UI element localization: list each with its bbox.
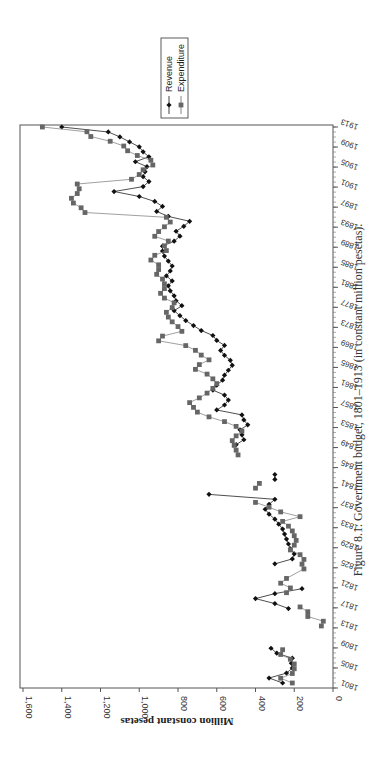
revenue-marker bbox=[133, 159, 138, 164]
expenditure-marker bbox=[278, 676, 283, 681]
expenditure-marker bbox=[75, 182, 80, 187]
expenditure-marker bbox=[170, 319, 175, 324]
value-tick-label: 600 bbox=[218, 696, 228, 711]
expenditure-marker bbox=[148, 258, 153, 263]
expenditure-marker bbox=[166, 315, 171, 320]
expenditure-marker bbox=[207, 357, 212, 362]
expenditure-marker bbox=[278, 652, 283, 657]
expenditure-marker bbox=[162, 243, 167, 248]
expenditure-marker bbox=[207, 414, 212, 419]
expenditure-marker bbox=[83, 210, 88, 215]
year-tick-label: 1805 bbox=[339, 658, 359, 673]
value-tick-label: 0 bbox=[334, 696, 344, 701]
expenditure-marker bbox=[222, 419, 227, 424]
expenditure-marker bbox=[284, 590, 289, 595]
expenditure-marker bbox=[187, 400, 192, 405]
expenditure-marker bbox=[162, 224, 167, 229]
expenditure-marker bbox=[170, 305, 175, 310]
legend-label: Revenue bbox=[164, 56, 174, 92]
expenditure-marker bbox=[183, 343, 188, 348]
revenue-marker bbox=[272, 601, 277, 606]
expenditure-marker bbox=[77, 186, 82, 191]
expenditure-marker bbox=[129, 177, 134, 182]
expenditure-marker bbox=[210, 386, 215, 391]
expenditure-marker bbox=[210, 376, 215, 381]
expenditure-marker bbox=[253, 500, 258, 505]
expenditure-marker bbox=[121, 144, 126, 149]
expenditure-marker bbox=[168, 220, 173, 225]
revenue-marker bbox=[127, 139, 132, 144]
revenue-marker bbox=[152, 199, 157, 204]
legend-expenditure-marker bbox=[179, 103, 184, 108]
revenue-marker bbox=[282, 531, 287, 536]
revenue-marker bbox=[191, 323, 196, 328]
year-tick-label: 1801 bbox=[339, 678, 359, 693]
expenditure-marker bbox=[156, 262, 161, 267]
year-tick-label: 1909 bbox=[339, 137, 359, 152]
revenue-marker bbox=[199, 328, 204, 333]
expenditure-marker bbox=[154, 272, 159, 277]
revenue-marker bbox=[272, 472, 277, 477]
value-tick-label: 400 bbox=[257, 696, 267, 711]
revenue-marker bbox=[272, 477, 277, 482]
value-tick-label: 1,000 bbox=[140, 696, 150, 719]
expenditure-marker bbox=[176, 324, 181, 329]
expenditure-marker bbox=[69, 196, 74, 201]
revenue-marker bbox=[241, 437, 246, 442]
expenditure-marker bbox=[290, 671, 295, 676]
expenditure-marker bbox=[290, 681, 295, 686]
expenditure-marker bbox=[85, 129, 90, 134]
expenditure-marker bbox=[292, 543, 297, 548]
expenditure-marker bbox=[288, 586, 293, 591]
expenditure-marker bbox=[88, 134, 93, 139]
expenditure-marker bbox=[205, 372, 210, 377]
expenditure-marker bbox=[230, 438, 235, 443]
expenditure-marker bbox=[156, 338, 161, 343]
expenditure-marker bbox=[152, 253, 157, 258]
expenditure-marker bbox=[162, 281, 167, 286]
revenue-marker bbox=[284, 536, 289, 541]
expenditure-marker bbox=[298, 552, 303, 557]
expenditure-marker bbox=[197, 395, 202, 400]
expenditure-marker bbox=[278, 581, 283, 586]
y-axis-label: Million constant pesetas bbox=[120, 716, 234, 728]
expenditure-marker bbox=[162, 286, 167, 291]
expenditure-marker bbox=[290, 529, 295, 534]
revenue-marker bbox=[272, 561, 277, 566]
revenue-line bbox=[256, 589, 303, 609]
revenue-marker bbox=[272, 591, 277, 596]
expenditure-marker bbox=[305, 609, 310, 614]
expenditure-marker bbox=[294, 538, 299, 543]
expenditure-marker bbox=[40, 125, 45, 130]
expenditure-marker bbox=[321, 619, 326, 624]
revenue-marker bbox=[280, 680, 285, 685]
year-tick-label: 1817 bbox=[339, 598, 359, 613]
value-tick-label: 1,200 bbox=[102, 696, 112, 719]
year-tick-label: 1809 bbox=[339, 638, 359, 653]
expenditure-marker bbox=[288, 548, 293, 553]
revenue-marker bbox=[111, 189, 116, 194]
year-tick-label: 1897 bbox=[339, 197, 359, 212]
expenditure-marker bbox=[195, 410, 200, 415]
year-tick-label: 1821 bbox=[339, 578, 359, 593]
plot-area: 02004006008001,0001,2001,4001,6001801180… bbox=[20, 117, 365, 728]
expenditure-marker bbox=[137, 172, 142, 177]
expenditure-marker bbox=[278, 510, 283, 515]
expenditure-marker bbox=[164, 215, 169, 220]
revenue-marker bbox=[299, 586, 304, 591]
expenditure-marker bbox=[135, 153, 140, 158]
expenditure-marker bbox=[305, 614, 310, 619]
expenditure-marker bbox=[298, 605, 303, 610]
expenditure-marker bbox=[156, 229, 161, 234]
expenditure-marker bbox=[286, 524, 291, 529]
expenditure-marker bbox=[199, 353, 204, 358]
expenditure-marker bbox=[164, 248, 169, 253]
revenue-marker bbox=[214, 407, 219, 412]
expenditure-marker bbox=[152, 234, 157, 239]
expenditure-marker bbox=[298, 514, 303, 519]
expenditure-marker bbox=[108, 139, 113, 144]
expenditure-marker bbox=[253, 486, 258, 491]
expenditure-marker bbox=[234, 424, 239, 429]
revenue-line bbox=[62, 127, 248, 445]
year-tick-label: 1913 bbox=[339, 117, 359, 132]
